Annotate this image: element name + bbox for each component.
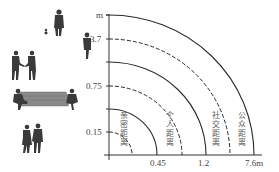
zone-label-char: 离 [238,137,246,147]
zone-label-char: 众 [238,120,246,129]
personal-distance-label: 个人距离 [166,111,174,147]
social-distance-label: 社交距离 [212,110,220,147]
x-tick-label: 0.45 [150,158,166,168]
y-tick-label: 3.7 [90,34,102,44]
distance-arcs [106,15,254,155]
couple-holding-hands-illustration [22,124,43,153]
zone-label-char: 离 [120,137,128,147]
zone-label-char: 距 [212,129,220,138]
x-tick-label: 7.6m [245,158,263,168]
zone-label-char: 个 [166,111,174,120]
zone-label-char: 公 [238,111,246,120]
zone-label-char: 距 [120,129,128,138]
distance-arc-2 [109,109,157,155]
intimate-distance-label: 亲密距离 [120,110,128,147]
zone-label-char: 距 [238,129,246,138]
x-tick-label: 1.2 [198,158,209,168]
two-people-on-bench-illustration [13,89,78,110]
person-with-dog-illustration [44,9,64,36]
two-people-shaking-hands-illustration [12,51,36,80]
zone-label-char: 亲 [120,110,128,120]
distance-arc-6 [109,15,254,155]
zone-label-char: 交 [212,119,220,129]
zone-label-char: 离 [166,137,174,147]
y-tick-label: 0.15 [86,127,102,137]
zone-label-char: 距 [166,129,174,138]
y-tick-label: 0.75 [86,81,102,91]
zone-label-char: 社 [212,110,220,120]
y-axis-unit-label: m [96,10,103,20]
zone-label-char: 人 [166,120,174,129]
zone-label-char: 密 [120,119,128,129]
zone-label-char: 离 [212,137,220,147]
proxemics-diagram: m 3.7 0.75 0.15 0.45 1.2 7.6m 亲密距离个人距离社交… [0,0,279,172]
public-distance-label: 公众距离 [238,111,246,147]
